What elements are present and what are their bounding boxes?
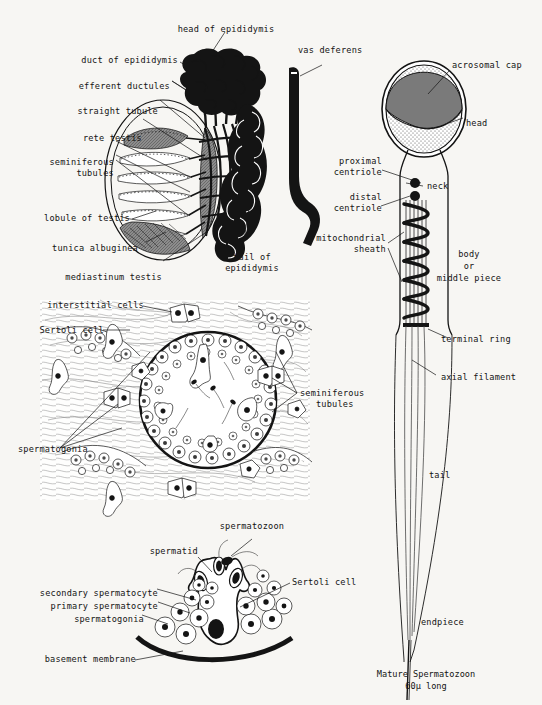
label-mitochondrial-sheath-2: sheath	[278, 244, 386, 255]
label-proximal-centriole-1: proximal	[288, 156, 382, 167]
label-seminiferous-tubules-cross-2: tubules	[316, 399, 416, 410]
label-proximal-centriole-2: centriole	[288, 167, 382, 178]
label-lobule-of-testis: lobule of testis	[10, 213, 130, 224]
label-mitochondrial-sheath-1: mitochondrial	[278, 233, 386, 244]
figure-epithelium	[137, 540, 292, 660]
label-duct-of-epididymis: duct of epididymis	[30, 55, 178, 66]
label-sertoli-cell-epithelium: Sertoli cell	[292, 577, 396, 588]
label-basement-membrane: basement membrane	[6, 654, 136, 665]
label-tail-of-epididymis-2: epididymis	[204, 263, 300, 274]
label-seminiferous-tubules-2: tubules	[10, 168, 114, 179]
caption-line-2: 60µ long	[352, 680, 500, 692]
label-distal-centriole-2: centriole	[288, 203, 382, 214]
label-distal-centriole-1: distal	[288, 192, 382, 203]
label-rete-testis: rete testis	[40, 133, 142, 144]
label-endpiece: endpiece	[421, 617, 493, 628]
label-straight-tubule: straight tubule	[38, 106, 158, 117]
diagram-canvas: head of epididymis duct of epididymis ef…	[0, 0, 542, 705]
label-spermatogonia-epithelium: spermatogonia	[20, 614, 144, 625]
label-axial-filament: axial filament	[441, 372, 542, 383]
label-interstitial-cells: interstitial cells	[10, 300, 144, 311]
label-body-3: middle piece	[414, 273, 524, 284]
label-tunica-albuginea: tunica albuginea	[8, 243, 138, 254]
label-seminiferous-tubules-cross-1: seminiferous	[300, 388, 410, 399]
label-efferent-ductules: efferent ductules	[38, 81, 170, 92]
label-secondary-spermatocyte: secondary spermatocyte	[6, 588, 158, 599]
label-spermatozoon: spermatozoon	[196, 521, 308, 532]
distal-centriole-dot	[410, 191, 420, 201]
label-mediastinum-testis: mediastinum testis	[22, 272, 162, 283]
label-neck: neck	[427, 181, 477, 192]
caption-line-1: Mature Spermatozoon	[352, 668, 500, 680]
label-sertoli-cell-cross: Sertoli cell	[6, 325, 104, 336]
label-body-1: body	[420, 249, 518, 260]
label-vas-deferens: vas deferens	[298, 45, 398, 56]
label-seminiferous-tubules-1: seminiferous	[10, 157, 114, 168]
label-head: head	[466, 118, 516, 129]
label-acrosomal-cap: acrosomal cap	[452, 60, 542, 71]
label-primary-spermatocyte: primary spermatocyte	[6, 601, 158, 612]
label-spermatogonia-cross: spermatogonia	[18, 444, 138, 455]
label-head-of-epididymis: head of epididymis	[166, 24, 286, 35]
label-body-2: or	[420, 261, 518, 272]
label-tail: tail	[429, 470, 475, 481]
label-terminal-ring: terminal ring	[441, 334, 541, 345]
label-spermatid: spermatid	[92, 546, 198, 557]
